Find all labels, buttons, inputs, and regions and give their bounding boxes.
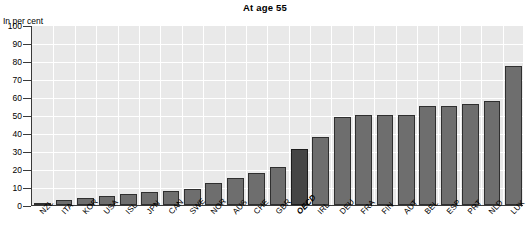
bar-deu [334,117,351,205]
y-axis-tick [23,152,31,153]
plot-area [31,26,523,206]
y-axis-tick-label: 10 [0,184,22,192]
y-axis-tick [23,188,31,189]
y-axis-tick [23,116,31,117]
bar-aut [398,115,415,205]
y-axis-tick [23,62,31,63]
bar-fin [377,115,394,205]
y-axis-tick-label: 20 [0,166,22,174]
chart-figure: At age 55 In per cent NZLITAKORUSAISLJPN… [0,0,530,252]
y-axis-tick [23,206,31,207]
y-axis-tick [23,134,31,135]
y-axis-tick-label: 40 [0,130,22,138]
bar-lux [505,66,522,205]
y-axis-tick [23,98,31,99]
y-axis-tick-label: 100 [0,22,22,30]
y-axis-tick-label: 50 [0,112,22,120]
bar-fra [355,115,372,205]
y-axis-tick-label: 90 [0,40,22,48]
bar-series [32,26,523,205]
y-axis-tick-label: 60 [0,94,22,102]
bar-nld [484,101,501,205]
bar-bel [419,106,436,205]
y-axis-tick [23,44,31,45]
bar-irl [312,137,329,205]
bar-oecd [291,149,308,205]
y-axis-tick-label: 0 [0,202,22,210]
y-axis-tick [23,26,31,27]
y-axis-tick [23,170,31,171]
y-axis-tick-label: 30 [0,148,22,156]
y-axis-tick-label: 70 [0,76,22,84]
chart-title: At age 55 [0,2,530,13]
y-axis-tick [23,80,31,81]
bar-esp [441,106,458,205]
y-axis-tick-label: 80 [0,58,22,66]
bar-prt [462,104,479,205]
